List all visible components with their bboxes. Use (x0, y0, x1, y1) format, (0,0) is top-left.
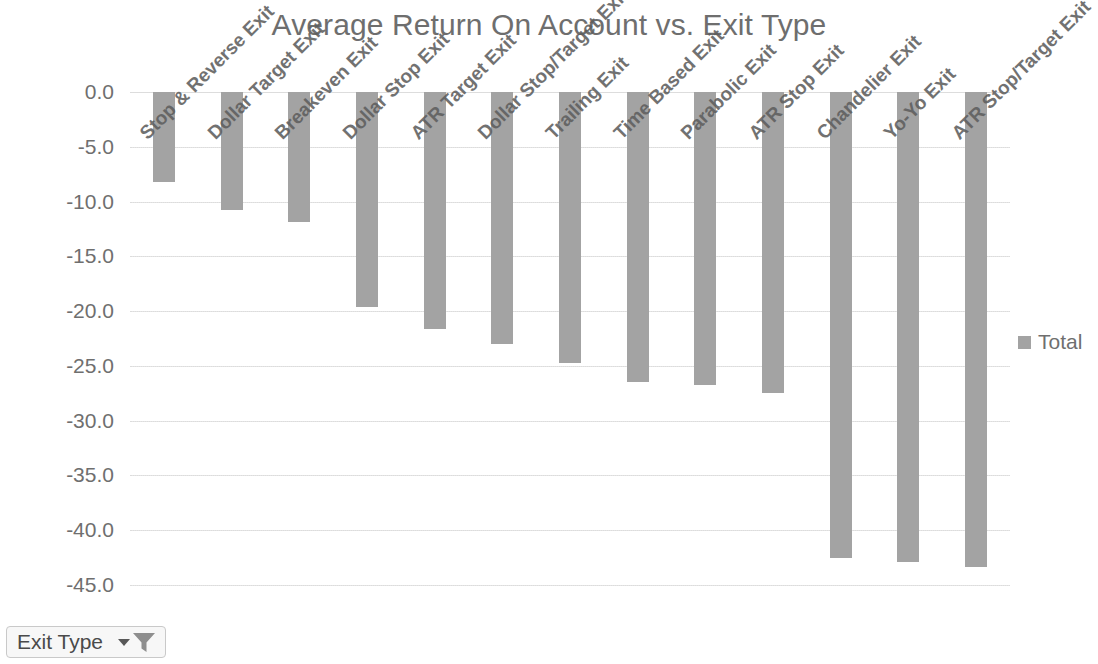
y-axis-tick-label: -30.0 (66, 409, 114, 433)
gridline (130, 530, 1010, 531)
gridline (130, 475, 1010, 476)
bar[interactable] (965, 92, 987, 567)
bar[interactable] (694, 92, 716, 385)
bar[interactable] (897, 92, 919, 562)
bar[interactable] (153, 92, 175, 182)
gridline (130, 421, 1010, 422)
bar[interactable] (491, 92, 513, 344)
legend-label-total: Total (1038, 330, 1082, 354)
y-axis-tick-label: 0.0 (85, 80, 114, 104)
filter-button-icons[interactable] (118, 630, 157, 654)
y-axis-tick-label: -20.0 (66, 299, 114, 323)
bar[interactable] (356, 92, 378, 307)
bar[interactable] (288, 92, 310, 222)
bar[interactable] (627, 92, 649, 382)
filter-button-label: Exit Type (17, 630, 103, 654)
chart-container: Average Return On Account vs. Exit Type … (0, 0, 1098, 664)
y-axis-tick-label: -25.0 (66, 354, 114, 378)
gridline (130, 585, 1010, 586)
exit-type-filter-button[interactable]: Exit Type (6, 626, 166, 658)
y-axis-tick-label: -45.0 (66, 573, 114, 597)
bar[interactable] (221, 92, 243, 210)
chart-legend: Total (1018, 330, 1082, 354)
chevron-down-icon[interactable] (118, 639, 130, 646)
y-axis: 0.0-5.0-10.0-15.0-20.0-25.0-30.0-35.0-40… (0, 92, 122, 585)
y-axis-tick-label: -35.0 (66, 463, 114, 487)
y-axis-tick-label: -40.0 (66, 518, 114, 542)
gridline (130, 366, 1010, 367)
y-axis-tick-label: -15.0 (66, 244, 114, 268)
y-axis-tick-label: -5.0 (78, 135, 114, 159)
bar[interactable] (830, 92, 852, 558)
legend-swatch-total (1018, 336, 1031, 349)
funnel-icon[interactable] (131, 630, 157, 654)
bar[interactable] (559, 92, 581, 363)
y-axis-tick-label: -10.0 (66, 190, 114, 214)
bar[interactable] (424, 92, 446, 329)
chart-title: Average Return On Account vs. Exit Type (0, 8, 1098, 42)
bar[interactable] (762, 92, 784, 393)
plot-area (130, 92, 1010, 585)
